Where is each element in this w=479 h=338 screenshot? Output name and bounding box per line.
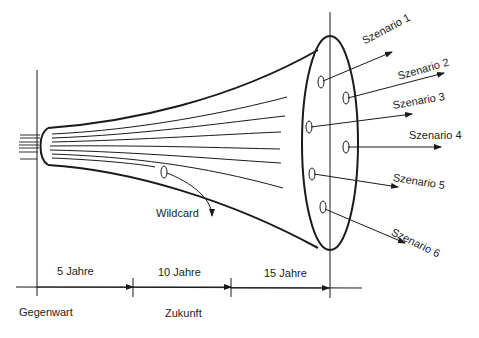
scenario-arrows [311, 52, 444, 243]
segment-label-5-jahre: 5 Jahre [57, 266, 94, 277]
diagram-canvas [0, 0, 479, 338]
segment-label-10-jahre: 10 Jahre [158, 267, 201, 278]
funnel-mouth [41, 128, 49, 165]
scenario-4-label: Szenario 4 [409, 130, 462, 141]
scenario-funnel-diagram: Szenario 1 Szenario 2 Szenario 3 Szenari… [0, 0, 479, 338]
funnel-outline-top [48, 50, 318, 128]
present-label: Gegenwart [19, 307, 73, 318]
wildcard-point [161, 166, 167, 178]
funnel-inner-lines [50, 97, 287, 188]
segment-label-15-jahre: 15 Jahre [264, 268, 307, 279]
future-label: Zukunft [165, 308, 202, 319]
scenario-1-arrow [323, 52, 392, 81]
scenario-3-arrow [311, 114, 412, 127]
scenario-points [306, 76, 349, 213]
wildcard-label: Wildcard [156, 208, 199, 219]
